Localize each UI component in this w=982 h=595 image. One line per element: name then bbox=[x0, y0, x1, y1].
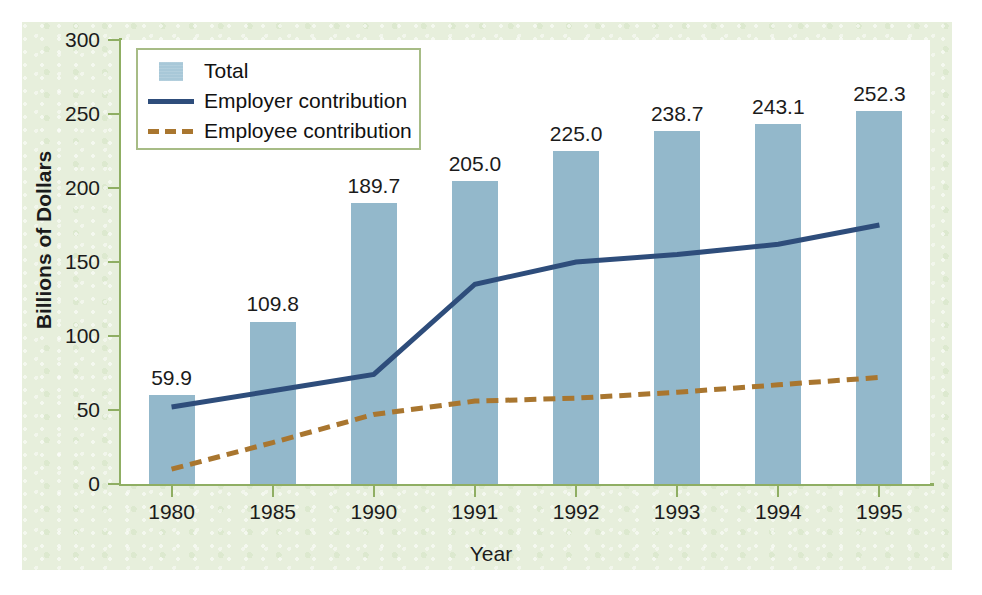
bar-value-label: 109.8 bbox=[208, 292, 338, 316]
x-tick-mark bbox=[878, 486, 880, 497]
y-tick-mark bbox=[108, 261, 120, 263]
y-tick-mark bbox=[108, 335, 120, 337]
solid-line-swatch-icon bbox=[138, 99, 204, 104]
legend-item-total: Total bbox=[138, 56, 419, 86]
x-tick-mark bbox=[474, 486, 476, 497]
legend-label: Employer contribution bbox=[204, 89, 407, 113]
x-tick-label: 1995 bbox=[819, 500, 939, 524]
x-tick-mark bbox=[676, 486, 678, 497]
x-tick-mark bbox=[272, 486, 274, 497]
y-tick-mark bbox=[108, 39, 120, 41]
dashed-line-swatch-icon bbox=[138, 129, 204, 134]
y-tick-label: 0 bbox=[0, 472, 100, 496]
x-tick-mark bbox=[575, 486, 577, 497]
bar-value-label: 252.3 bbox=[814, 82, 944, 106]
y-tick-mark bbox=[108, 483, 120, 485]
bar-value-label: 189.7 bbox=[309, 174, 439, 198]
legend-label: Employee contribution bbox=[204, 119, 412, 143]
legend-item-employer: Employer contribution bbox=[138, 86, 419, 116]
x-tick-mark bbox=[777, 486, 779, 497]
y-tick-mark bbox=[108, 409, 120, 411]
y-tick-mark bbox=[108, 113, 120, 115]
bar-value-label: 59.9 bbox=[107, 366, 237, 390]
y-tick-label: 50 bbox=[0, 398, 100, 422]
y-tick-label: 300 bbox=[0, 28, 100, 52]
x-axis-label: Year bbox=[0, 542, 982, 566]
chart-legend: Total Employer contribution Employee con… bbox=[136, 48, 421, 150]
y-tick-mark bbox=[108, 187, 120, 189]
bar-value-label: 205.0 bbox=[410, 152, 540, 176]
filled-square-swatch-icon bbox=[138, 62, 204, 81]
legend-label: Total bbox=[204, 59, 248, 83]
chart-figure: 050100150200250300 198019851990199119921… bbox=[0, 0, 982, 595]
x-tick-mark bbox=[373, 486, 375, 497]
legend-item-employee: Employee contribution bbox=[138, 116, 419, 146]
x-tick-mark bbox=[171, 486, 173, 497]
y-axis-label: Billions of Dollars bbox=[32, 100, 56, 380]
